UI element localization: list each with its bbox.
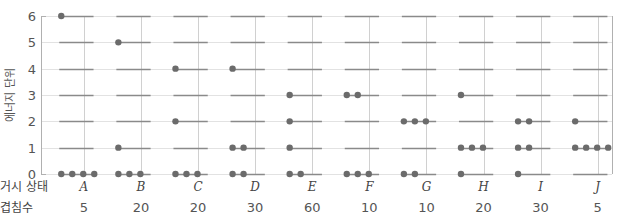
macrostate-label: J (592, 180, 601, 194)
particle-dot (355, 92, 361, 98)
particle-dot (126, 171, 132, 177)
particle-dot (515, 171, 521, 177)
particle-dot (526, 118, 532, 124)
particle-dot (594, 144, 600, 150)
particle-dot (355, 171, 361, 177)
particle-dot (229, 65, 235, 71)
multiplicity-value: 30 (532, 200, 549, 215)
particle-dot (366, 171, 372, 177)
y-tick-label: 3 (28, 88, 36, 103)
particle-dot (58, 171, 64, 177)
macrostate-label: H (477, 180, 489, 194)
particle-dot (240, 144, 246, 150)
multiplicity-value: 20 (133, 200, 150, 215)
particle-dot (515, 144, 521, 150)
y-tick-label: 5 (28, 35, 36, 50)
particle-dot (344, 171, 350, 177)
y-tick-label: 6 (28, 9, 36, 24)
particle-dot (286, 171, 292, 177)
y-tick-label: 2 (28, 114, 36, 129)
particle-dot (172, 65, 178, 71)
macrostate-label: D (249, 180, 260, 194)
particle-dot (115, 171, 121, 177)
particle-dot (297, 171, 303, 177)
multiplicity-value: 10 (418, 200, 435, 215)
multiplicity-value: 60 (304, 200, 321, 215)
particle-dot (480, 144, 486, 150)
y-tick-label: 4 (28, 62, 36, 77)
macrostate-label: F (364, 180, 374, 194)
y-tick-labels: 0123456 (28, 9, 36, 182)
particle-dot (69, 171, 75, 177)
particle-dot (229, 171, 235, 177)
multiplicity-value: 20 (190, 200, 207, 215)
particle-dot (91, 171, 97, 177)
particle-dot (458, 144, 464, 150)
multiplicity-value: 10 (361, 200, 378, 215)
particle-dot (194, 171, 200, 177)
particle-dot (412, 171, 418, 177)
multiplicity-value: 5 (80, 200, 88, 215)
particle-dot (458, 171, 464, 177)
multiplicity-value: 30 (247, 200, 264, 215)
particle-dot (572, 144, 578, 150)
particle-dot (286, 92, 292, 98)
particle-dot (137, 171, 143, 177)
particle-dot (412, 118, 418, 124)
particle-dot (515, 118, 521, 124)
particle-dot (572, 118, 578, 124)
particle-dot (469, 144, 475, 150)
particle-dot (605, 144, 611, 150)
particle-dot (401, 118, 407, 124)
particle-dot (229, 144, 235, 150)
y-tick-label: 1 (28, 141, 36, 156)
particle-dot (115, 39, 121, 45)
particle-dot (183, 171, 189, 177)
particle-dot (423, 118, 429, 124)
particle-dot (401, 171, 407, 177)
energy-level-chart: 0123456 에너지 단위 거시 상태 겹침수 ABCDEFGHIJ 5202… (0, 0, 641, 220)
macrostate-label: I (537, 180, 543, 194)
particle-dot (80, 171, 86, 177)
particle-dot (286, 118, 292, 124)
particle-dot (344, 92, 350, 98)
particle-dot (240, 171, 246, 177)
multiplicity-value: 5 (594, 200, 602, 215)
particle-dot (458, 92, 464, 98)
particle-dot (115, 144, 121, 150)
multiplicity-values: 520203060101020305 (80, 200, 602, 215)
multiplicity-value: 20 (475, 200, 492, 215)
particle-dot (583, 144, 589, 150)
particle-dot (58, 13, 64, 19)
particle-dot (172, 171, 178, 177)
macrostate-label: B (136, 180, 146, 194)
macrostate-label: C (193, 180, 202, 194)
multiplicity-row-label: 겹침수 (0, 201, 33, 215)
macrostate-row-label: 거시 상태 (0, 180, 48, 194)
y-axis-label: 에너지 단위 (4, 68, 17, 122)
macrostate-label: G (422, 180, 432, 194)
particle-dot (172, 118, 178, 124)
macrostate-label: A (78, 180, 88, 194)
macrostate-label: E (307, 180, 317, 194)
particle-dot (286, 144, 292, 150)
macrostate-labels: ABCDEFGHIJ (78, 180, 601, 194)
particle-dot (526, 144, 532, 150)
